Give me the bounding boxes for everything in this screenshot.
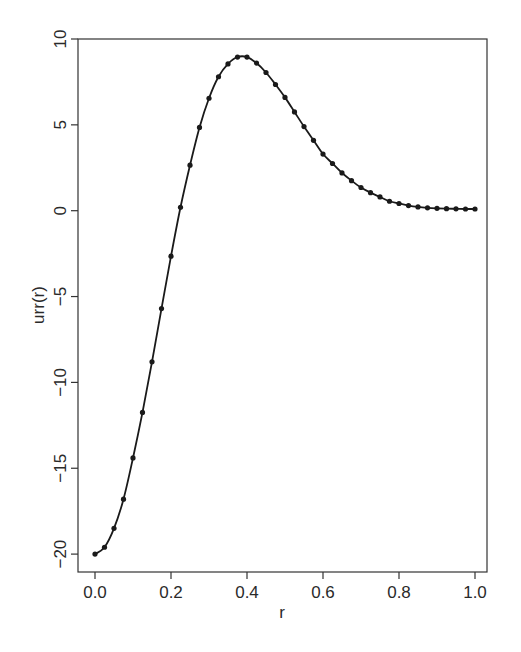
y-tick-label: 0 (51, 206, 70, 215)
data-point (263, 70, 268, 75)
y-tick-label: −10 (51, 368, 70, 397)
data-point (159, 306, 164, 311)
data-point (121, 497, 126, 502)
data-point (463, 206, 468, 211)
data-point (92, 552, 97, 557)
data-point (206, 96, 211, 101)
y-tick-label: −20 (51, 540, 70, 569)
x-axis: 0.00.20.40.60.81.0 (83, 572, 487, 602)
data-point (358, 185, 363, 190)
series-line (95, 56, 475, 554)
data-point (282, 95, 287, 100)
x-tick-label: 0.4 (235, 583, 259, 602)
data-point (444, 206, 449, 211)
data-point (168, 254, 173, 259)
plot-frame (78, 39, 487, 572)
y-tick-label: −15 (51, 454, 70, 483)
data-point (111, 526, 116, 531)
data-point (149, 359, 154, 364)
data-point (178, 205, 183, 210)
y-axis: −20−15−10−50510 (51, 30, 78, 569)
data-point (301, 124, 306, 129)
data-point (330, 161, 335, 166)
data-point (311, 138, 316, 143)
data-point (216, 74, 221, 79)
x-axis-label: r (279, 603, 285, 622)
data-point (244, 54, 249, 59)
x-tick-label: 0.6 (311, 583, 335, 602)
y-tick-label: −5 (51, 287, 70, 306)
data-point (425, 205, 430, 210)
y-tick-label: 5 (51, 120, 70, 129)
data-point (434, 206, 439, 211)
data-point (406, 203, 411, 208)
data-point (320, 151, 325, 156)
data-point (396, 201, 401, 206)
data-point (453, 206, 458, 211)
data-point (472, 206, 477, 211)
line-chart: 0.00.20.40.60.81.0 −20−15−10−50510 r urr… (0, 0, 521, 652)
data-point (130, 455, 135, 460)
x-tick-label: 0.2 (159, 583, 183, 602)
data-point (368, 190, 373, 195)
data-series (92, 54, 477, 556)
x-tick-label: 0.0 (83, 583, 107, 602)
data-point (377, 194, 382, 199)
data-point (387, 199, 392, 204)
data-point (415, 204, 420, 209)
data-point (197, 125, 202, 130)
y-tick-label: 10 (51, 30, 70, 49)
data-point (140, 410, 145, 415)
data-point (235, 54, 240, 59)
data-point (187, 163, 192, 168)
data-point (339, 170, 344, 175)
data-point (273, 82, 278, 87)
x-tick-label: 1.0 (463, 583, 487, 602)
y-axis-label: urr(r) (29, 286, 48, 324)
data-point (102, 545, 107, 550)
data-point (292, 109, 297, 114)
data-point (225, 61, 230, 66)
x-tick-label: 0.8 (387, 583, 411, 602)
data-point (349, 178, 354, 183)
data-point (254, 60, 259, 65)
